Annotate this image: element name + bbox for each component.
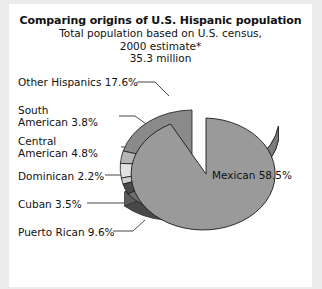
- slice-label-other-hispanics: Other Hispanics 17.6%: [18, 76, 138, 88]
- slice-label-south-american: South American 3.8%: [18, 104, 98, 128]
- figure-container: Comparing origins of U.S. Hispanic popul…: [0, 0, 322, 289]
- slice-label-cuban: Cuban 3.5%: [18, 198, 82, 210]
- slice-label-mexican: Mexican 58.5%: [212, 169, 292, 181]
- slice-label-puerto-rican: Puerto Rican 9.6%: [18, 226, 115, 238]
- exploded-mexican-slice: Mexican 58.5%: [131, 118, 292, 230]
- pie-graphic: Mexican 58.5%: [104, 66, 304, 266]
- pie-chart: Mexican 58.5% Other Hispanics 17.6% Sout…: [9, 4, 312, 287]
- chart-panel: Comparing origins of U.S. Hispanic popul…: [9, 4, 312, 287]
- slice-label-dominican: Dominican 2.2%: [18, 170, 104, 182]
- slice-label-central-american: Central American 4.8%: [18, 135, 98, 159]
